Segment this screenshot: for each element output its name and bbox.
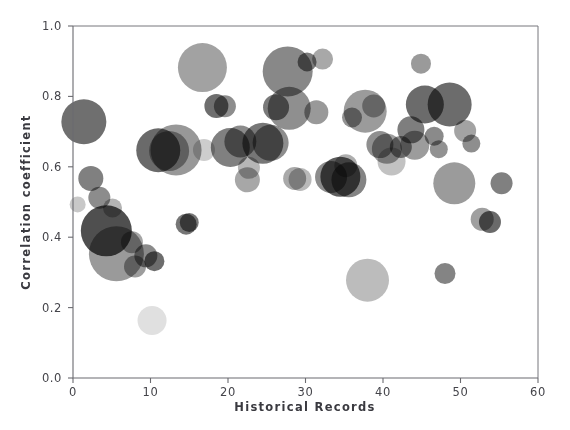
- data-point-bubble: [312, 49, 333, 70]
- data-point-bubble: [331, 162, 366, 197]
- x-tick-label: 40: [375, 385, 391, 399]
- y-tick-label: 0.6: [42, 160, 62, 174]
- data-point-bubble: [362, 94, 385, 117]
- x-axis-title: Historical Records: [234, 400, 375, 414]
- data-point-bubble: [430, 140, 448, 158]
- y-axis-title: Correlation coefficient: [19, 114, 33, 289]
- data-point-bubble: [268, 87, 311, 130]
- data-point-bubble: [411, 54, 431, 74]
- data-point-bubble: [289, 168, 312, 191]
- data-point-bubble: [428, 83, 472, 127]
- data-point-bubble: [435, 263, 456, 284]
- data-point-bubble: [433, 162, 475, 204]
- data-point-bubble: [61, 99, 106, 144]
- scatter-plot-svg: 0102030405060 0.00.20.40.60.81.0 Histori…: [0, 0, 570, 430]
- data-point-bubble: [214, 95, 236, 117]
- data-point-bubble: [235, 167, 260, 192]
- x-tick-label: 60: [530, 385, 546, 399]
- data-point-bubble: [479, 211, 501, 233]
- data-point-bubble: [304, 100, 328, 124]
- y-tick-label: 0.0: [42, 371, 62, 385]
- y-tick-label: 0.4: [42, 230, 62, 244]
- data-point-bubble: [144, 251, 164, 271]
- x-tick-label: 50: [453, 385, 469, 399]
- y-tick-label: 0.8: [42, 89, 62, 103]
- data-point-bubble: [103, 198, 122, 217]
- bubble-chart-figure: 0102030405060 0.00.20.40.60.81.0 Histori…: [0, 0, 570, 430]
- y-tick-label: 1.0: [42, 19, 62, 33]
- data-point-bubble: [491, 172, 513, 194]
- data-point-bubble: [178, 43, 227, 92]
- x-tick-label: 20: [220, 385, 236, 399]
- data-point-bubble: [346, 259, 389, 302]
- data-point-bubble: [462, 135, 480, 153]
- data-point-bubble: [70, 196, 86, 212]
- data-point-bubble: [253, 125, 289, 161]
- data-point-bubble: [138, 306, 167, 335]
- x-tick-label: 30: [298, 385, 314, 399]
- data-point-bubble: [180, 213, 199, 232]
- x-tick-label: 0: [69, 385, 77, 399]
- y-tick-label: 0.2: [42, 301, 62, 315]
- x-tick-label: 10: [143, 385, 159, 399]
